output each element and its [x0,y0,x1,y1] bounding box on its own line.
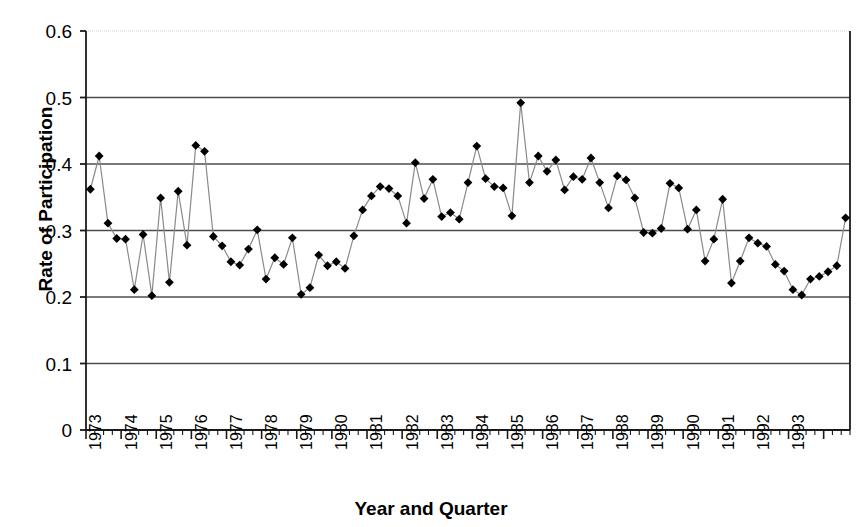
x-tick-label: 1982 [404,414,422,450]
x-tick-label: 1993 [790,414,808,450]
x-tick-label: 1973 [87,414,105,450]
data-point-marker [121,235,130,244]
data-point-marker [472,142,481,151]
data-point-marker [832,261,841,270]
y-tick-label: 0.5 [18,89,72,108]
data-point-marker [332,257,341,266]
data-point-marker [797,291,806,300]
data-point-marker [622,176,631,185]
data-point-marker [437,212,446,221]
y-tick-label: 0.4 [18,155,72,174]
data-point-marker [692,205,701,214]
data-point-marker [789,285,798,294]
data-point-marker [86,185,95,194]
data-point-marker [411,158,420,167]
data-point-marker [534,152,543,161]
x-tick-label: 1980 [333,414,351,450]
chart-figure: Rate of Participation 00.10.20.30.40.50.… [0,0,862,527]
data-point-marker [630,194,639,203]
data-point-marker [604,203,613,212]
data-point-marker [587,154,596,163]
x-tick-label: 1975 [158,414,176,450]
data-point-marker [736,257,745,266]
data-point-marker [95,152,104,161]
x-tick-label: 1987 [579,414,597,450]
series-line [90,103,845,296]
x-tick-label: 1986 [544,414,562,450]
y-tick-label: 0.1 [18,355,72,374]
x-tick-label: 1991 [720,414,738,450]
y-tick-label: 0.6 [18,22,72,41]
x-tick-label: 1979 [298,414,316,450]
data-point-marker [446,208,455,217]
data-point-marker [525,178,534,187]
x-tick-label: 1985 [509,414,527,450]
x-axis-title: Year and Quarter [0,498,862,520]
data-point-marker [639,228,648,237]
data-point-marker [824,267,833,276]
data-point-marker [358,205,367,214]
data-point-marker [815,272,824,281]
data-point-marker [674,184,683,193]
data-point-marker [762,242,771,251]
data-point-marker [569,172,578,181]
y-tick-label: 0 [18,421,72,440]
x-tick-label: 1977 [228,414,246,450]
data-point-marker [156,194,165,203]
data-point-marker [595,178,604,187]
x-tick-label: 1989 [649,414,667,450]
data-point-marker [147,291,156,300]
data-point-marker [130,285,139,294]
data-point-marker [771,260,780,269]
data-point-marker [104,219,113,228]
gridlines [86,31,850,430]
data-point-marker [657,224,666,233]
data-point-marker [666,179,675,188]
data-point-marker [226,257,235,266]
data-point-marker [402,219,411,228]
x-tick-label: 1990 [685,414,703,450]
data-point-marker [508,211,517,220]
data-point-marker [420,194,429,203]
data-point-marker [560,186,569,195]
x-tick-label: 1992 [755,414,773,450]
data-point-marker [464,178,473,187]
data-point-marker [244,245,253,254]
series-markers [86,98,850,300]
data-point-marker [174,187,183,196]
data-point-marker [349,231,358,240]
data-point-marker [841,213,850,222]
data-point-marker [235,261,244,270]
data-point-marker [701,257,710,266]
y-axis-tick-labels: 00.10.20.30.40.50.6 [14,0,72,527]
data-point-marker [613,172,622,181]
data-point-marker [183,241,192,250]
y-tick-label: 0.3 [18,222,72,241]
data-point-marker [288,233,297,242]
data-point-marker [200,147,209,156]
data-point-marker [753,239,762,248]
x-tick-label: 1988 [614,414,632,450]
data-point-marker [718,195,727,204]
data-point-marker [165,278,174,287]
data-point-marker [262,275,271,284]
y-tick-label: 0.2 [18,288,72,307]
data-point-marker [253,225,262,234]
x-tick-label: 1983 [439,414,457,450]
x-tick-label: 1984 [474,414,492,450]
data-point-marker [112,234,121,243]
data-point-marker [191,141,200,150]
data-point-marker [516,98,525,107]
x-tick-label: 1974 [123,414,141,450]
data-point-marker [709,235,718,244]
x-tick-label: 1981 [368,414,386,450]
data-point-marker [578,175,587,184]
x-tick-label: 1978 [263,414,281,450]
data-point-marker [745,233,754,242]
x-tick-label: 1976 [193,414,211,450]
data-point-marker [428,175,437,184]
data-point-marker [683,225,692,234]
data-point-marker [499,184,508,193]
data-point-marker [806,275,815,284]
data-point-marker [727,279,736,288]
